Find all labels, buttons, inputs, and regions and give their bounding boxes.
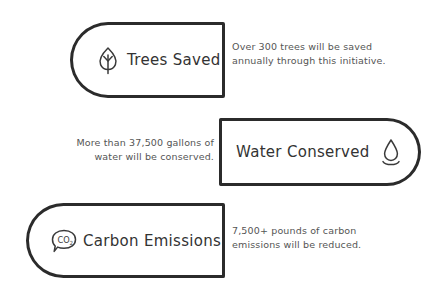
badge-label-carbon-emissions: Carbon Emissions <box>79 232 221 250</box>
leaf-icon <box>93 43 123 77</box>
description-line: water will be conserved. <box>48 150 214 164</box>
badge-trees-saved[interactable]: Trees Saved <box>70 22 225 98</box>
description-line: emissions will be reduced. <box>232 238 428 252</box>
description-trees-saved: Over 300 trees will be saved annually th… <box>232 40 432 69</box>
svg-text:CO: CO <box>58 234 70 244</box>
description-line: annually through this initiative. <box>232 54 432 68</box>
row-water-conserved: More than 37,500 gallons of water will b… <box>0 110 442 200</box>
badge-label-trees-saved: Trees Saved <box>123 51 220 69</box>
badge-carbon-emissions[interactable]: CO 2 Carbon Emissions <box>26 203 225 278</box>
description-line: More than 37,500 gallons of <box>48 136 214 150</box>
svg-text:2: 2 <box>70 239 74 245</box>
row-trees-saved: Trees Saved Over 300 trees will be saved… <box>0 14 442 104</box>
badge-label-water-conserved: Water Conserved <box>236 143 376 161</box>
water-drop-icon <box>376 135 406 169</box>
description-line: 7,500+ pounds of carbon <box>232 224 428 238</box>
row-carbon-emissions: CO 2 Carbon Emissions 7,500+ pounds of c… <box>0 196 442 286</box>
co2-bubble-icon: CO 2 <box>49 224 79 258</box>
description-carbon-emissions: 7,500+ pounds of carbon emissions will b… <box>232 224 428 253</box>
description-line: Over 300 trees will be saved <box>232 40 432 54</box>
sustainability-infographic: Trees Saved Over 300 trees will be saved… <box>0 0 442 296</box>
badge-water-conserved[interactable]: Water Conserved <box>219 118 421 186</box>
description-water-conserved: More than 37,500 gallons of water will b… <box>48 136 214 165</box>
